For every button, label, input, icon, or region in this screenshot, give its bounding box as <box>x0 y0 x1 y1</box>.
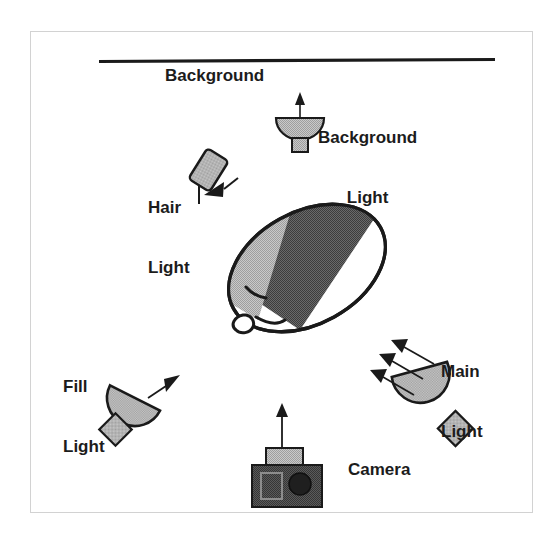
fill-light-beam-arrow <box>148 375 180 398</box>
background-light-label: Background Light <box>318 88 417 248</box>
background-light[interactable] <box>276 92 324 152</box>
hair-light-label-line2: Light <box>148 258 190 278</box>
fill-light-label-line1: Fill <box>63 377 105 397</box>
main-light-label-line1: Main <box>441 362 483 382</box>
main-light-label-line2: Light <box>441 422 483 442</box>
figure-canvas: Background Background Light Hair Light M… <box>0 0 560 536</box>
camera-sightline-arrow <box>276 403 288 448</box>
hair-light[interactable] <box>188 148 238 204</box>
camera-label: Camera <box>348 460 410 480</box>
fill-light-label: Fill Light <box>63 337 105 497</box>
head-nose <box>233 315 253 333</box>
background-label: Background <box>165 66 264 86</box>
fill-light-label-line2: Light <box>63 437 105 457</box>
camera-top-block <box>266 448 303 466</box>
background-light-label-line1: Background <box>318 128 417 148</box>
camera[interactable] <box>252 403 322 507</box>
hair-light-label-line1: Hair <box>148 198 190 218</box>
hair-light-label: Hair Light <box>148 158 190 318</box>
background-light-bowl <box>276 118 324 140</box>
background-light-beam-arrow <box>295 92 305 118</box>
background-light-label-line2: Light <box>318 188 417 208</box>
camera-lens <box>289 473 311 495</box>
fill-light[interactable] <box>99 375 180 446</box>
background-light-base <box>292 138 308 152</box>
background-plane-line <box>99 60 495 62</box>
main-light-label: Main Light <box>441 322 483 482</box>
